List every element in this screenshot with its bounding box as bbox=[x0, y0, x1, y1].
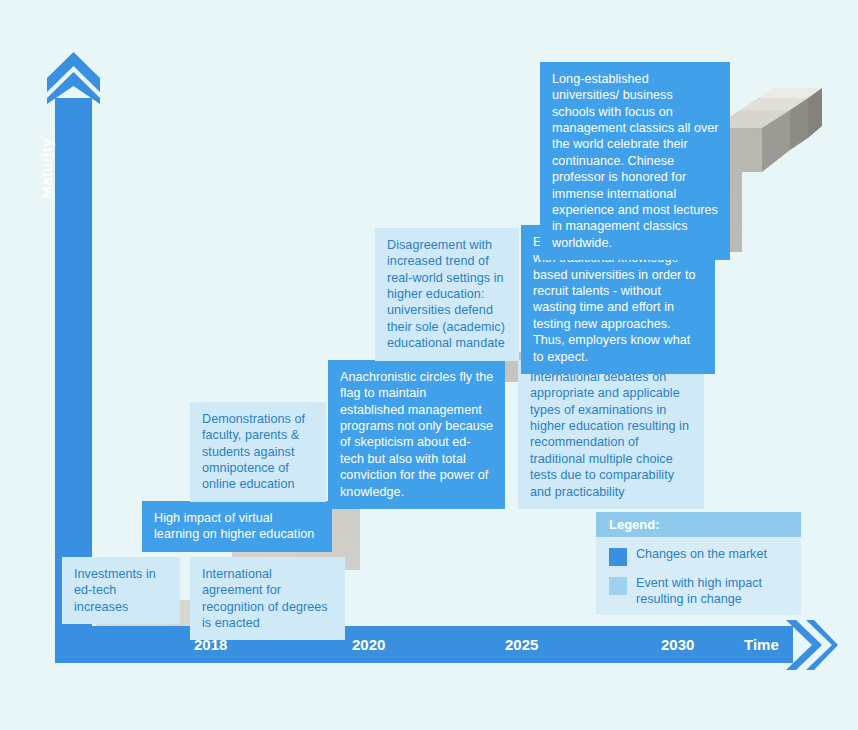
legend-item: Event with high impact resulting in chan… bbox=[596, 576, 801, 607]
x-axis-tick-2030: 2030 bbox=[661, 636, 694, 653]
card-international-debates[interactable]: International debates on appropriate and… bbox=[518, 360, 704, 509]
legend-item-label: Event with high impact resulting in chan… bbox=[636, 576, 801, 607]
y-axis-label: Maturity bbox=[38, 114, 55, 224]
legend-items: Changes on the marketEvent with high imp… bbox=[596, 547, 801, 607]
card-disagreement-real-world[interactable]: Disagreement with increased trend of rea… bbox=[375, 228, 519, 361]
legend-item: Changes on the market bbox=[596, 547, 801, 566]
y-axis-arrowhead bbox=[47, 52, 100, 104]
roadmap-diagram: Maturity 2018202020252030 Time Investmen… bbox=[0, 0, 858, 730]
legend-title: Legend: bbox=[596, 512, 801, 537]
card-demonstrations-faculty[interactable]: Demonstrations of faculty, parents & stu… bbox=[190, 402, 326, 502]
legend: Legend: Changes on the marketEvent with … bbox=[596, 512, 801, 615]
card-international-agreement[interactable]: International agreement for recognition … bbox=[190, 557, 345, 640]
x-axis-tick-2025: 2025 bbox=[505, 636, 538, 653]
card-investments-ed-tech[interactable]: Investments in ed-tech increases bbox=[62, 557, 180, 624]
x-axis-tick-2020: 2020 bbox=[352, 636, 385, 653]
legend-swatch-light bbox=[609, 577, 627, 595]
legend-swatch-dark bbox=[609, 548, 627, 566]
card-high-impact-virtual-learning[interactable]: High impact of virtual learning on highe… bbox=[142, 501, 332, 552]
x-axis-title: Time bbox=[744, 636, 779, 653]
card-anachronistic-circles[interactable]: Anachronistic circles fly the flag to ma… bbox=[328, 360, 505, 509]
x-axis-arrowhead bbox=[786, 620, 838, 670]
card-long-established-universities[interactable]: Long-established universities/ business … bbox=[540, 62, 730, 260]
legend-item-label: Changes on the market bbox=[636, 547, 767, 563]
